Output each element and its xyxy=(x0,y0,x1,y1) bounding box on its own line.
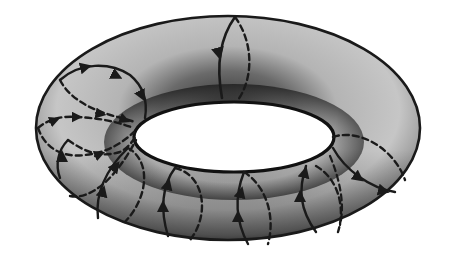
torus-figure xyxy=(0,0,456,260)
torus-hole xyxy=(134,102,334,172)
torus-svg xyxy=(0,0,456,260)
